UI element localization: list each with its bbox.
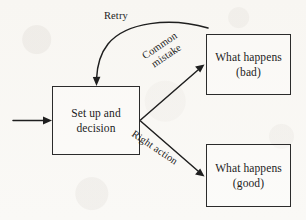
node-what-happens-bad[interactable]: What happens (bad) <box>206 34 291 95</box>
node-set-up-and-decision[interactable]: Set up and decision <box>52 86 140 155</box>
node-what-happens-good[interactable]: What happens (good) <box>206 144 291 207</box>
node-label-set-up-and-decision: Set up and decision <box>71 106 121 134</box>
edge-input-arrow <box>13 117 52 125</box>
edge-common-mistake-arrow <box>141 64 205 120</box>
edge-label-retry: Retry <box>104 10 128 22</box>
diagram-canvas: Set up and decision What happens (bad) W… <box>0 0 306 220</box>
node-label-what-happens-bad: What happens (bad) <box>215 50 282 78</box>
node-label-what-happens-good: What happens (good) <box>215 161 282 189</box>
